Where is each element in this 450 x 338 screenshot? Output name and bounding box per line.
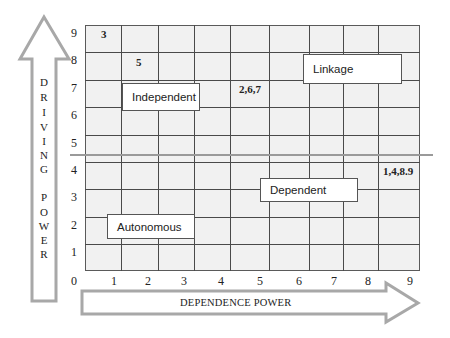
grid-line <box>85 52 420 53</box>
y-axis-letter: D <box>38 75 50 89</box>
autonomous-quadrant-label: Autonomous <box>107 214 195 239</box>
y-axis-letter: E <box>38 233 50 247</box>
data-point-label: 3 <box>101 28 107 40</box>
data-point-label: 2,6,7 <box>239 83 261 95</box>
independent-label-text: Independent <box>132 91 196 103</box>
y-axis-letter: O <box>38 205 50 219</box>
y-tick: 4 <box>68 163 80 178</box>
grid-line <box>85 135 420 136</box>
x-tick: 7 <box>327 274 341 289</box>
y-tick: 0 <box>68 274 80 289</box>
y-tick: 7 <box>68 81 80 96</box>
y-tick: 6 <box>68 108 80 123</box>
y-axis-letter: W <box>38 219 50 233</box>
y-axis-letter: R <box>38 90 50 104</box>
x-tick: 6 <box>292 274 306 289</box>
y-tick: 1 <box>68 245 80 260</box>
y-tick: 2 <box>68 218 80 233</box>
linkage-label-text: Linkage <box>313 63 353 75</box>
grid-line <box>269 25 270 271</box>
y-tick: 5 <box>68 136 80 151</box>
quadrant-separator-line <box>70 154 433 156</box>
y-axis-letter: N <box>38 148 50 162</box>
linkage-quadrant-label: Linkage <box>303 54 402 84</box>
grid-line <box>85 189 420 190</box>
dependent-quadrant-label: Dependent <box>260 178 358 202</box>
x-tick: 1 <box>107 274 121 289</box>
x-tick: 5 <box>253 274 267 289</box>
y-axis-letter: P <box>38 190 50 204</box>
y-axis-letter: R <box>38 247 50 261</box>
x-axis-label: DEPENDENCE POWER <box>180 297 291 308</box>
grid-line <box>85 244 420 245</box>
y-axis-letter: I <box>38 134 50 148</box>
x-tick: 3 <box>177 274 191 289</box>
y-axis-letter: G <box>38 162 50 176</box>
x-tick: 2 <box>141 274 155 289</box>
y-tick: 9 <box>68 26 80 41</box>
x-tick: 4 <box>214 274 228 289</box>
data-point-label: 5 <box>136 56 142 68</box>
x-tick: 8 <box>361 274 375 289</box>
y-axis-letter: I <box>38 105 50 119</box>
grid-line <box>230 25 231 271</box>
dependent-label-text: Dependent <box>270 184 326 196</box>
independent-quadrant-label: Independent <box>122 83 200 111</box>
x-tick: 9 <box>403 274 417 289</box>
data-point-label: 1,4,8.9 <box>383 165 413 177</box>
y-tick: 3 <box>68 190 80 205</box>
y-axis-letter: V <box>38 120 50 134</box>
grid-line <box>85 162 420 163</box>
autonomous-label-text: Autonomous <box>117 221 182 233</box>
y-tick: 8 <box>68 53 80 68</box>
